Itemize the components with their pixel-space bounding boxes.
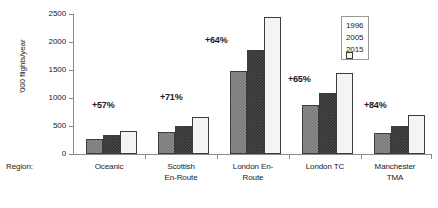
- growth-label-manchester-tma: +84%: [364, 100, 386, 110]
- legend: 1996 2005 2015: [341, 16, 369, 60]
- legend-item-2015: 2015: [346, 44, 363, 56]
- legend-swatch-2015: [346, 52, 353, 59]
- bar-london-en-route-2015: [264, 17, 281, 154]
- bar-oceanic-2015: [120, 131, 137, 155]
- flights-per-year-bar-chart: '000 flights/year 2500 2000 1500 1000 50…: [0, 0, 438, 208]
- x-label-scottish-line1: Scottish: [143, 161, 219, 172]
- x-label-manchester-line2: TMA: [357, 172, 433, 183]
- y-tick-label-1000: 1000: [20, 94, 66, 102]
- bar-group-london-en-route: [217, 14, 289, 154]
- x-label-scottish-line2: En-Route: [143, 172, 219, 183]
- bar-london-en-route-1996: [230, 71, 247, 154]
- plot-area: [74, 14, 432, 154]
- legend-item-1996: 1996: [346, 20, 363, 32]
- x-label-london-en-route: London En- Route: [215, 161, 291, 183]
- x-label-manchester-tma: Manchester TMA: [357, 161, 433, 183]
- x-label-manchester-line1: Manchester: [357, 161, 433, 172]
- bar-manchester-2005: [391, 126, 408, 154]
- y-tick-label-2000: 2000: [20, 38, 66, 46]
- bar-london-en-route-2005: [247, 50, 264, 154]
- x-axis-separator-2: [217, 154, 218, 159]
- bar-london-tc-2015: [336, 73, 353, 154]
- x-label-london-en-route-line1: London En-: [215, 161, 291, 172]
- x-label-london-tc-line1: London TC: [287, 161, 363, 172]
- y-tick-label-500: 500: [20, 122, 66, 130]
- growth-label-oceanic: +57%: [92, 100, 114, 110]
- bar-oceanic-1996: [86, 139, 103, 154]
- bar-group-oceanic: [74, 14, 145, 154]
- x-axis-separator-3: [289, 154, 290, 159]
- bar-manchester-1996: [374, 133, 391, 154]
- bar-scottish-2015: [192, 117, 209, 154]
- bar-london-tc-2005: [319, 93, 336, 154]
- legend-item-2005: 2005: [346, 32, 363, 44]
- x-label-oceanic: Oceanic: [71, 161, 147, 172]
- x-label-london-en-route-line2: Route: [215, 172, 291, 183]
- bar-london-tc-1996: [302, 105, 319, 154]
- y-tick-label-2500: 2500: [20, 10, 66, 18]
- x-label-oceanic-line1: Oceanic: [71, 161, 147, 172]
- growth-label-scottish-en-route: +71%: [160, 92, 182, 102]
- growth-label-london-en-route: +64%: [205, 35, 227, 45]
- bar-manchester-2015: [408, 115, 425, 154]
- bar-oceanic-2005: [103, 135, 120, 154]
- legend-label-2005: 2005: [346, 34, 363, 42]
- x-axis-line: [73, 154, 432, 155]
- y-tick-label-0: 0: [20, 150, 66, 158]
- x-axis-separator-4: [361, 154, 362, 159]
- legend-label-1996: 1996: [346, 22, 363, 30]
- x-axis-separator-1: [145, 154, 146, 159]
- bar-scottish-2005: [175, 126, 192, 154]
- bar-scottish-1996: [158, 132, 175, 154]
- x-label-scottish-en-route: Scottish En-Route: [143, 161, 219, 183]
- y-tick-label-1500: 1500: [20, 66, 66, 74]
- x-label-london-tc: London TC: [287, 161, 363, 172]
- growth-label-london-tc: +65%: [288, 74, 310, 84]
- x-axis-caption: Region:: [6, 162, 33, 171]
- x-axis-separator-5: [431, 154, 432, 159]
- bar-group-manchester-tma: [361, 14, 433, 154]
